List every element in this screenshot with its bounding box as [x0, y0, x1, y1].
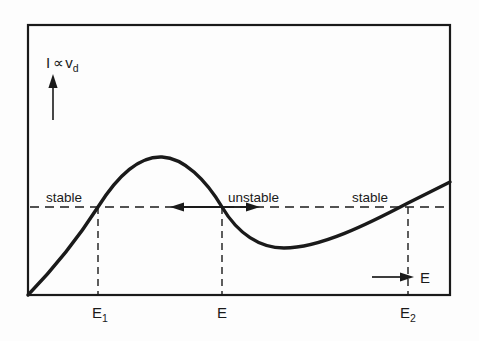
tick-label-E1-subscript: 1: [102, 312, 108, 324]
annotation-unstable-middle: unstable: [228, 190, 279, 205]
annotation-stable-left: stable: [46, 190, 82, 205]
tick-label-E-base: E: [217, 304, 227, 321]
tick-label-E2-base: E: [400, 304, 410, 321]
proportional-icon: ∝: [53, 54, 64, 71]
x-axis-label: E: [420, 269, 430, 286]
y-axis-arrow: [48, 74, 57, 120]
tick-label-E: E: [217, 304, 227, 321]
figure-container: I∝vd stable unstable stable E: [0, 0, 479, 341]
tick-label-E1-base: E: [92, 304, 102, 321]
characteristic-curve: [28, 157, 450, 295]
tick-label-E2-subscript: 2: [410, 312, 416, 324]
y-axis-label-v-subscript: d: [73, 62, 79, 74]
plot-frame: [28, 25, 450, 295]
tick-label-E2: E2: [400, 304, 416, 324]
y-axis-label-I: I: [46, 54, 50, 71]
flow-arrow-left: [170, 203, 222, 212]
annotation-stable-right: stable: [352, 190, 388, 205]
y-axis-label: I∝vd: [46, 54, 79, 74]
tick-label-E1: E1: [92, 304, 108, 324]
physics-characteristic-chart: I∝vd stable unstable stable E: [0, 0, 479, 341]
